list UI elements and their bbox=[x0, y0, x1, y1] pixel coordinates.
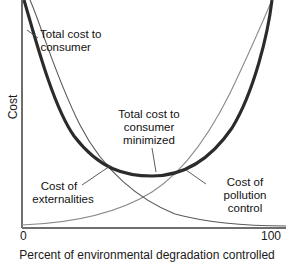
x-axis-tick-0: 0 bbox=[20, 229, 27, 243]
y-axis-label: Cost bbox=[6, 84, 20, 130]
annotation-minimized-line2: consumer bbox=[97, 121, 201, 134]
annotation-externalities-line2: externalities bbox=[17, 193, 109, 206]
leader-line-minimized bbox=[152, 148, 156, 172]
annotation-cost-of-pollution-control: Cost of pollution control bbox=[208, 176, 282, 215]
x-axis-label: Percent of environmental degradation con… bbox=[0, 248, 294, 262]
x-axis-tick-100: 100 bbox=[261, 229, 281, 243]
annotation-total-cost-minimized: Total cost to consumer minimized bbox=[97, 108, 201, 147]
annotation-pollution-line1: Cost of bbox=[208, 176, 282, 189]
leader-line-pollution bbox=[186, 170, 206, 184]
annotation-externalities-line1: Cost of bbox=[17, 180, 109, 193]
annotation-minimized-line1: Total cost to bbox=[97, 108, 201, 121]
annotation-minimized-line3: minimized bbox=[97, 134, 201, 147]
annotation-pollution-line2: pollution bbox=[208, 189, 282, 202]
total-cost-curve bbox=[24, 0, 272, 176]
annotation-pollution-line3: control bbox=[208, 202, 282, 215]
annotation-total-cost-to-consumer: Total cost to consumer bbox=[40, 28, 101, 54]
annotation-total-cost-line1: Total cost to bbox=[40, 28, 101, 41]
annotation-cost-of-externalities: Cost of externalities bbox=[17, 180, 109, 206]
annotation-total-cost-line2: consumer bbox=[40, 41, 101, 54]
